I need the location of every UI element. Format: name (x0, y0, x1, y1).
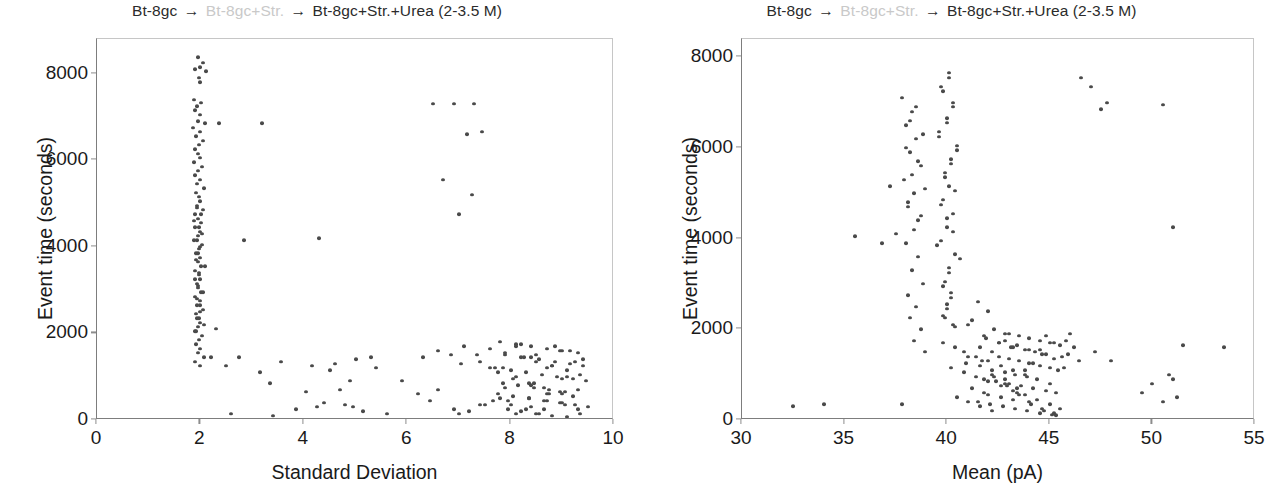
data-point (553, 360, 557, 363)
data-point (198, 130, 202, 133)
data-point (193, 148, 197, 151)
data-point (853, 235, 857, 238)
data-point (578, 412, 582, 415)
data-point (1048, 382, 1052, 385)
data-point (563, 403, 567, 406)
data-point (333, 362, 337, 365)
x-tick-label: 6 (401, 427, 412, 449)
data-point (1007, 357, 1011, 360)
x-tick-mark (1151, 419, 1152, 424)
x-tick-label: 4 (298, 427, 309, 449)
data-point (431, 102, 435, 105)
data-point (201, 61, 205, 64)
title-segment-2: Bt-8gc+Str. (206, 2, 284, 19)
data-point (209, 356, 213, 359)
data-point (581, 358, 585, 361)
data-point (198, 245, 202, 248)
data-point (201, 208, 205, 211)
data-point (197, 195, 201, 198)
x-tick-mark (1048, 419, 1049, 424)
data-point (511, 394, 515, 397)
data-point (449, 353, 453, 356)
data-point (941, 341, 945, 344)
data-point (374, 366, 378, 369)
data-point (947, 271, 951, 274)
data-point (1068, 332, 1072, 335)
data-point (976, 400, 980, 403)
plot-area-right (741, 38, 1254, 419)
data-point (514, 375, 518, 378)
data-point (906, 201, 910, 204)
data-point (195, 104, 199, 107)
data-point (201, 139, 205, 142)
data-point (1089, 85, 1093, 88)
data-point (400, 379, 404, 382)
data-point (964, 362, 968, 365)
data-point (529, 405, 533, 408)
data-point (906, 294, 910, 297)
data-point (916, 255, 920, 258)
data-point (939, 85, 943, 88)
x-tick-mark (302, 419, 303, 424)
x-tick-mark (406, 419, 407, 424)
data-point (553, 345, 557, 348)
data-point (910, 269, 914, 272)
data-point (949, 157, 953, 160)
data-point (1005, 384, 1009, 387)
data-point (919, 328, 923, 331)
data-point (519, 410, 523, 413)
data-point (436, 388, 440, 391)
data-point (966, 400, 970, 403)
data-point (1011, 398, 1015, 401)
data-point (988, 402, 992, 405)
data-point (191, 126, 195, 129)
data-point (1161, 400, 1165, 403)
data-point (1027, 337, 1031, 340)
data-point (537, 412, 541, 415)
y-tick-mark (91, 245, 96, 246)
data-point (198, 299, 202, 302)
data-point (791, 405, 795, 408)
data-point (1031, 387, 1035, 390)
data-point (1054, 391, 1058, 394)
data-point (1077, 359, 1081, 362)
plot-area-left (96, 38, 613, 419)
x-tick-label: 40 (936, 427, 957, 449)
title-segment-3: Bt-8gc+Str.+Urea (2-3.5 M) (947, 2, 1137, 19)
data-point (279, 360, 283, 363)
data-point (457, 412, 461, 415)
data-point (571, 377, 575, 380)
data-point (568, 349, 572, 352)
x-axis-title-left: Standard Deviation (96, 461, 613, 484)
data-point (999, 396, 1003, 399)
data-point (197, 76, 201, 79)
data-point (1079, 76, 1083, 79)
data-point (1011, 368, 1015, 371)
data-point (1048, 402, 1052, 405)
data-point (900, 96, 904, 99)
data-point (200, 232, 204, 235)
data-point (943, 171, 947, 174)
data-point (493, 366, 497, 369)
data-point (1171, 377, 1175, 380)
data-point (1222, 346, 1226, 349)
x-tick-label: 10 (602, 427, 623, 449)
data-point (229, 412, 233, 415)
data-point (198, 113, 202, 116)
data-point (576, 407, 580, 410)
data-point (529, 345, 533, 348)
x-tick-mark (199, 419, 200, 424)
data-point (534, 360, 538, 363)
data-point (1001, 405, 1005, 408)
data-point (1038, 411, 1042, 414)
data-point (970, 387, 974, 390)
data-point (217, 122, 221, 125)
data-point (199, 213, 203, 216)
data-point (509, 403, 513, 406)
data-point (203, 122, 207, 125)
data-point (571, 394, 575, 397)
data-point (951, 212, 955, 215)
data-point (880, 241, 884, 244)
data-point (914, 105, 918, 108)
data-point (542, 386, 546, 389)
